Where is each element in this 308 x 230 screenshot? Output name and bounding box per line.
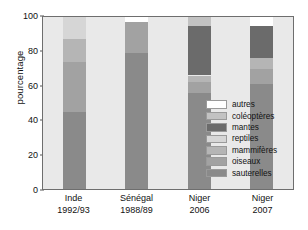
x-tick-label-4: Niger2007: [252, 193, 274, 216]
bar-segment-mammifères: [188, 76, 211, 83]
legend-item-mantes: mantes: [206, 122, 292, 133]
y-tick-label: 0: [33, 185, 38, 195]
legend-swatch-coléoptères: [206, 112, 227, 121]
y-tick-label: 100: [23, 11, 38, 21]
legend-item-oiseaux: oiseaux: [206, 156, 292, 167]
legend-swatch-autres: [206, 100, 227, 109]
bar-2: [125, 17, 148, 189]
x-axis-labels: Inde1992/93Sénégal1988/89Niger2006Niger2…: [42, 193, 294, 227]
bar-segment-sauterelles: [125, 53, 148, 189]
bar-segment-reptiles: [63, 17, 86, 39]
bar-segment-mantes: [250, 26, 273, 59]
bar-segment-mammifères: [250, 58, 273, 68]
x-tick-label-1: Inde1992/93: [57, 193, 90, 216]
legend-item-reptiles: reptiles: [206, 133, 292, 144]
legend-label: coléoptères: [232, 112, 274, 121]
bar-segment-mammifères: [63, 39, 86, 61]
bar-segment-oiseaux: [250, 69, 273, 84]
x-tick-label-year: 2006: [189, 205, 211, 217]
x-tick-label-year: 1988/89: [120, 205, 153, 217]
bar-1: [63, 17, 86, 189]
legend-item-sauterelles: sauterelles: [206, 167, 292, 178]
stacked-bar-chart: pourcentage 020406080100 Inde1992/93Séné…: [0, 0, 308, 230]
legend-label: autres: [232, 100, 255, 109]
bar-segment-coléoptères: [188, 17, 211, 26]
x-tick-label-year: 2007: [252, 205, 274, 217]
legend-swatch-mantes: [206, 123, 227, 132]
chart-legend: autrescoléoptèresmantesreptilesmammifère…: [206, 99, 292, 179]
legend-label: mantes: [232, 123, 259, 132]
y-tick-label: 40: [28, 115, 38, 125]
x-tick-label-3: Niger2006: [189, 193, 211, 216]
x-tick-label-place: Niger: [252, 193, 274, 205]
y-tick-label: 80: [28, 46, 38, 56]
legend-swatch-oiseaux: [206, 157, 227, 166]
x-tick-label-place: Niger: [189, 193, 211, 205]
x-tick-label-year: 1992/93: [57, 205, 90, 217]
bar-segment-sauterelles: [63, 112, 86, 189]
x-tick-label-place: Sénégal: [120, 193, 153, 205]
bar-segment-autres: [250, 17, 273, 26]
bar-segment-oiseaux: [188, 82, 211, 92]
legend-label: oiseaux: [232, 157, 260, 166]
y-tick-label: 60: [28, 81, 38, 91]
legend-label: sauterelles: [232, 169, 272, 178]
legend-swatch-mammifères: [206, 146, 227, 155]
x-tick-label-place: Inde: [57, 193, 90, 205]
bar-segment-mantes: [188, 26, 211, 76]
bar-segment-oiseaux: [125, 22, 148, 53]
y-axis-ticks: 020406080100: [18, 10, 42, 196]
x-tick-label-2: Sénégal1988/89: [120, 193, 153, 216]
legend-item-autres: autres: [206, 99, 292, 110]
legend-item-coléoptères: coléoptères: [206, 110, 292, 121]
y-tick-label: 20: [28, 150, 38, 160]
legend-label: reptiles: [232, 134, 258, 143]
bar-segment-oiseaux: [63, 62, 86, 112]
legend-label: mammifères: [232, 146, 277, 155]
bar-segment-autres: [125, 17, 148, 22]
legend-swatch-sauterelles: [206, 169, 227, 178]
legend-item-mammifères: mammifères: [206, 145, 292, 156]
legend-swatch-reptiles: [206, 135, 227, 144]
